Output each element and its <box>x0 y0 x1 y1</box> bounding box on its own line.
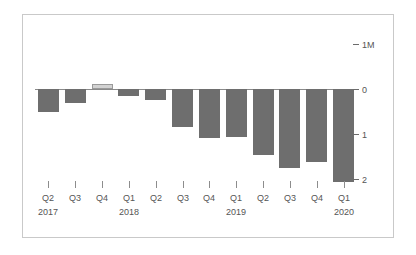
y-axis-tick: 1M <box>353 38 393 50</box>
x-tick-mark-icon <box>290 181 291 188</box>
y-axis-tick-label: 0 <box>362 84 367 96</box>
y-axis-tick: 1 <box>353 128 393 140</box>
y-axis-tick-label: 1M <box>362 39 375 51</box>
y-axis-tick-label: 2 <box>362 174 367 186</box>
x-tick-mark-icon <box>183 181 184 188</box>
bar-chart-plot-area: 1M012 Q2Q3Q4Q1Q2Q3Q4Q1Q2Q3Q4Q12017201820… <box>23 15 395 239</box>
y-tick-mark-icon <box>353 179 359 180</box>
y-axis-tick: 2 <box>353 173 393 185</box>
x-tick-mark-icon <box>236 181 237 188</box>
y-tick-mark-icon <box>353 134 359 135</box>
bar-q1-11[interactable] <box>333 89 354 182</box>
x-tick-mark-icon <box>129 181 130 188</box>
bar-q4-10[interactable] <box>306 89 327 162</box>
bar-q3-1[interactable] <box>65 89 86 103</box>
y-tick-mark-icon <box>353 89 359 90</box>
x-tick-mark-icon <box>344 181 345 188</box>
bar-q3-5[interactable] <box>172 89 193 127</box>
x-axis-year-label: 2019 <box>212 207 260 217</box>
x-axis-year-label: 2020 <box>320 207 368 217</box>
x-tick-mark-icon <box>102 181 103 188</box>
x-axis-year-label: 2018 <box>105 207 153 217</box>
bar-q1-7[interactable] <box>226 89 247 137</box>
x-tick-mark-icon <box>48 181 49 188</box>
y-axis-tick: 0 <box>353 83 393 95</box>
bar-q1-3[interactable] <box>118 89 139 96</box>
bar-q4-2[interactable] <box>92 84 113 89</box>
y-axis-tick-label: 1 <box>362 129 367 141</box>
bar-q4-6[interactable] <box>199 89 220 138</box>
bar-q2-0[interactable] <box>38 89 59 112</box>
x-tick-mark-icon <box>156 181 157 188</box>
x-axis-quarter-label: Q1 <box>324 193 364 203</box>
bar-q3-9[interactable] <box>279 89 300 168</box>
x-tick-mark-icon <box>75 181 76 188</box>
x-tick-mark-icon <box>263 181 264 188</box>
bar-q2-8[interactable] <box>253 89 274 155</box>
x-tick-mark-icon <box>209 181 210 188</box>
chart-card: 1M012 Q2Q3Q4Q1Q2Q3Q4Q1Q2Q3Q4Q12017201820… <box>22 14 394 238</box>
bar-q2-4[interactable] <box>145 89 166 100</box>
x-axis-year-label: 2017 <box>24 207 72 217</box>
x-tick-mark-icon <box>317 181 318 188</box>
y-tick-mark-icon <box>353 44 359 45</box>
